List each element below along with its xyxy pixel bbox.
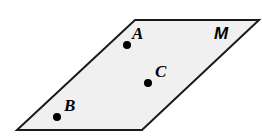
point-dot-c [144, 79, 152, 87]
plane-diagram: A C B M [0, 0, 262, 136]
point-label-c: C [155, 63, 166, 80]
point-label-b: B [64, 97, 75, 114]
point-dot-b [53, 113, 61, 121]
point-label-a: A [132, 25, 143, 42]
plane-shape-svg [0, 0, 262, 136]
plane-label-m: M [214, 25, 228, 42]
point-dot-a [123, 41, 131, 49]
